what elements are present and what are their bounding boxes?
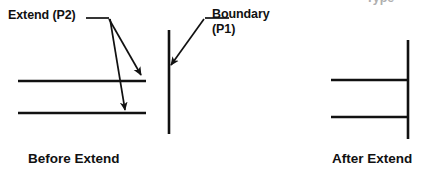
extend-command-diagram: Extend (P2) Boundary(P1) Before Extend A… — [0, 0, 429, 179]
extend-leader-group — [86, 18, 141, 110]
after-extend-panel — [331, 40, 409, 139]
boundary-label-line2: (P1) — [212, 22, 235, 36]
before-extend-caption: Before Extend — [28, 151, 120, 167]
after-extend-caption: After Extend — [332, 151, 412, 167]
boundary-annotation-label: Boundary(P1) — [212, 7, 270, 37]
before-extend-panel — [18, 30, 169, 134]
clipped-title-fragment: Type — [366, 0, 394, 5]
extend-annotation-label: Extend (P2) — [8, 8, 76, 23]
boundary-arrow-to-boundary-line — [171, 19, 204, 65]
boundary-label-line1: Boundary — [212, 7, 270, 21]
